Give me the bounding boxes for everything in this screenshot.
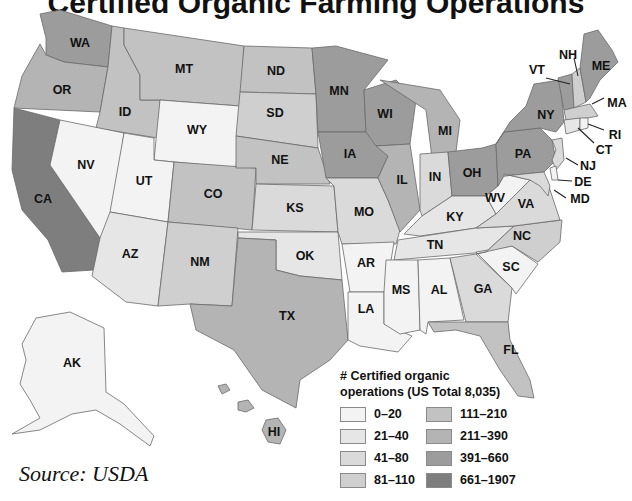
label-ny: NY bbox=[537, 108, 555, 122]
label-sc: SC bbox=[502, 260, 519, 274]
label-nj: NJ bbox=[580, 159, 596, 173]
legend-swatch bbox=[426, 451, 452, 466]
label-ne: NE bbox=[271, 153, 288, 167]
legend-item: 661–1907 bbox=[426, 472, 516, 488]
legend-item: 211–390 bbox=[426, 428, 516, 444]
label-oh: OH bbox=[463, 166, 482, 180]
label-me: ME bbox=[592, 59, 611, 73]
legend-item: 391–660 bbox=[426, 450, 516, 466]
leader-ri bbox=[588, 124, 604, 130]
legend-swatch bbox=[340, 473, 366, 488]
label-ok: OK bbox=[296, 249, 315, 263]
label-tx: TX bbox=[279, 309, 296, 323]
source-caption: Source: USDA bbox=[19, 461, 148, 487]
legend-label: 41–80 bbox=[374, 451, 409, 465]
legend-grid: 0–20 21–40 41–80 81–110 111–210 211–390 … bbox=[340, 406, 630, 488]
state-hi-islands bbox=[238, 400, 254, 412]
label-az: AZ bbox=[122, 247, 139, 261]
label-ct: CT bbox=[596, 143, 613, 157]
label-ca: CA bbox=[34, 192, 52, 206]
legend-swatch bbox=[426, 407, 452, 422]
legend-item: 41–80 bbox=[340, 450, 426, 466]
legend-label: 0–20 bbox=[374, 407, 402, 421]
legend-label: 391–660 bbox=[460, 451, 509, 465]
legend-swatch bbox=[426, 473, 452, 488]
legend-title-line2: operations (US Total 8,035) bbox=[340, 384, 630, 400]
label-mt: MT bbox=[175, 62, 193, 76]
label-mi: MI bbox=[438, 124, 452, 138]
label-wy: WY bbox=[187, 123, 208, 137]
label-ks: KS bbox=[286, 201, 303, 215]
state-ms[interactable] bbox=[384, 260, 420, 334]
label-nm: NM bbox=[190, 255, 209, 269]
label-mn: MN bbox=[329, 84, 348, 98]
label-wv: WV bbox=[485, 191, 506, 205]
label-nv: NV bbox=[77, 158, 95, 172]
legend-label: 111–210 bbox=[460, 407, 507, 421]
label-ak: AK bbox=[63, 356, 81, 370]
label-ky: KY bbox=[446, 210, 464, 224]
legend-label: 81–110 bbox=[374, 473, 415, 487]
legend-swatch bbox=[340, 407, 366, 422]
legend-item: 21–40 bbox=[340, 428, 426, 444]
legend-item: 81–110 bbox=[340, 472, 426, 488]
state-ct[interactable] bbox=[564, 118, 580, 134]
label-la: LA bbox=[358, 302, 375, 316]
label-vt: VT bbox=[529, 63, 545, 77]
label-ma: MA bbox=[607, 96, 626, 110]
label-ia: IA bbox=[344, 147, 357, 161]
label-de: DE bbox=[574, 175, 591, 189]
label-al: AL bbox=[431, 283, 448, 297]
label-in: IN bbox=[429, 170, 442, 184]
label-nd: ND bbox=[267, 64, 285, 78]
state-ak[interactable] bbox=[12, 312, 154, 446]
label-nc: NC bbox=[513, 229, 531, 243]
map-legend: # Certified organic operations (US Total… bbox=[340, 368, 630, 488]
label-nh: NH bbox=[559, 48, 577, 62]
label-md: MD bbox=[570, 192, 589, 206]
legend-label: 661–1907 bbox=[460, 473, 516, 487]
leader-nj bbox=[566, 158, 578, 165]
legend-label: 21–40 bbox=[374, 429, 409, 443]
label-il: IL bbox=[396, 173, 407, 187]
legend-swatch bbox=[340, 451, 366, 466]
label-ri: RI bbox=[609, 128, 622, 142]
label-tn: TN bbox=[427, 238, 444, 252]
state-ri[interactable] bbox=[580, 118, 588, 130]
legend-label: 211–390 bbox=[460, 429, 508, 443]
label-id: ID bbox=[119, 105, 132, 119]
leader-md bbox=[554, 190, 566, 198]
label-or: OR bbox=[53, 83, 72, 97]
label-sd: SD bbox=[266, 106, 283, 120]
label-co: CO bbox=[204, 187, 223, 201]
label-ar: AR bbox=[357, 256, 375, 270]
label-wi: WI bbox=[377, 107, 392, 121]
legend-item: 111–210 bbox=[426, 406, 516, 422]
legend-title: # Certified organic operations (US Total… bbox=[340, 368, 630, 400]
label-va: VA bbox=[518, 197, 534, 211]
legend-title-line1: # Certified organic bbox=[340, 368, 630, 384]
legend-item: 0–20 bbox=[340, 406, 426, 422]
label-wa: WA bbox=[70, 36, 90, 50]
legend-swatch bbox=[340, 429, 366, 444]
label-pa: PA bbox=[515, 147, 531, 161]
leader-ma bbox=[592, 98, 604, 104]
leader-de bbox=[558, 180, 572, 181]
legend-swatch bbox=[426, 429, 452, 444]
state-hi-islands-2 bbox=[218, 384, 230, 394]
leader-ct bbox=[578, 128, 594, 143]
label-hi: HI bbox=[268, 425, 281, 439]
label-ga: GA bbox=[474, 282, 493, 296]
label-fl: FL bbox=[503, 343, 519, 357]
label-mo: MO bbox=[354, 205, 374, 219]
label-ms: MS bbox=[392, 283, 411, 297]
label-ut: UT bbox=[136, 174, 153, 188]
